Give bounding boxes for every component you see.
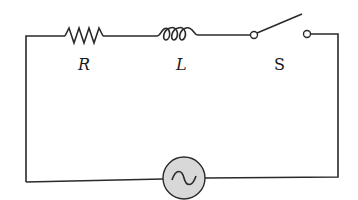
ac-source-symbol	[163, 157, 205, 199]
wire-bottom	[26, 179, 163, 182]
wire-right	[205, 34, 338, 178]
wire-left	[26, 36, 65, 182]
switch-label: S	[274, 55, 285, 74]
inductor-label: L	[175, 55, 187, 74]
resistor-label: R	[77, 55, 90, 74]
switch-symbol[interactable]	[251, 14, 311, 39]
resistor-symbol	[65, 28, 103, 43]
circuit-diagram: R L S	[0, 0, 358, 200]
inductor-symbol	[157, 28, 202, 40]
